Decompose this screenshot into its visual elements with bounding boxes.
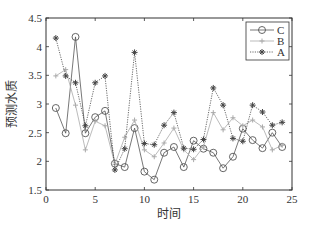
x-axis-label: 时间 bbox=[157, 207, 181, 221]
y-tick-label: 1.5 bbox=[28, 184, 42, 196]
y-tick-label: 2.5 bbox=[28, 127, 42, 139]
series-B bbox=[53, 67, 284, 167]
y-tick-label: 3.5 bbox=[28, 69, 42, 81]
y-axis-label: 预测水质 bbox=[5, 80, 19, 128]
y-tick-label: 3 bbox=[37, 98, 43, 110]
x-tick-label: 25 bbox=[287, 193, 299, 205]
legend-label: A bbox=[277, 46, 285, 58]
x-tick-label: 5 bbox=[92, 193, 98, 205]
line-chart: 05101520251.522.533.544.5 CBA 时间 预测水质 bbox=[0, 0, 310, 229]
x-tick-label: 20 bbox=[237, 193, 249, 205]
chart-canvas: 05101520251.522.533.544.5 CBA 时间 预测水质 bbox=[0, 0, 310, 229]
x-tick-label: 10 bbox=[139, 193, 151, 205]
x-tick-label: 15 bbox=[188, 193, 200, 205]
y-tick-label: 4.5 bbox=[28, 12, 42, 24]
x-tick-label: 0 bbox=[43, 193, 49, 205]
y-tick-label: 2 bbox=[37, 155, 43, 167]
legend: CBA bbox=[246, 22, 289, 60]
y-tick-label: 4 bbox=[37, 41, 43, 53]
